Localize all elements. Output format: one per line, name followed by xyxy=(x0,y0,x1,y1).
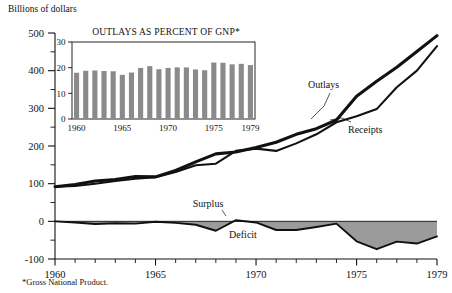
inset-bar xyxy=(74,73,79,119)
chart-svg: Billions of dollars 5004003002001000-100… xyxy=(0,0,452,293)
inset-bar xyxy=(193,69,198,119)
inset-x-tick-label: 1975 xyxy=(205,123,224,133)
budget-chart-figure: Billions of dollars 5004003002001000-100… xyxy=(0,0,452,293)
inset-x-tick-label: 1979 xyxy=(241,123,260,133)
x-tick-label: 1975 xyxy=(346,269,367,280)
y-tick-label: 300 xyxy=(28,103,44,114)
inset-bar xyxy=(230,64,235,119)
inset-x-tick-label: 1970 xyxy=(159,123,178,133)
inset-y-tick-label: 30 xyxy=(57,37,67,47)
inset-y-tick-label: 0 xyxy=(61,114,66,124)
inset-title: OUTLAYS AS PERCENT OF GNP* xyxy=(92,27,240,37)
chart-background xyxy=(0,0,452,293)
footnote-text: *Gross National Product. xyxy=(22,277,108,287)
inset-bar xyxy=(248,65,253,119)
inset-bar xyxy=(101,71,106,119)
inset-x-tick-label: 1965 xyxy=(113,123,132,133)
x-tick-label: 1979 xyxy=(427,269,448,280)
inset-bar xyxy=(211,63,216,119)
inset-bar xyxy=(147,66,152,119)
surplus-label: Surplus xyxy=(193,198,224,209)
inset-x-tick-label: 1960 xyxy=(68,123,87,133)
inset-bar xyxy=(166,68,171,119)
y-tick-label: 400 xyxy=(28,65,44,76)
y-tick-label: -100 xyxy=(25,254,44,265)
inset-bar xyxy=(239,64,244,119)
y-tick-label: 100 xyxy=(28,178,44,189)
x-tick-label: 1970 xyxy=(246,269,267,280)
inset-bar xyxy=(138,68,143,119)
inset-bar xyxy=(175,67,180,119)
outlays-label: Outlays xyxy=(308,79,339,90)
inset-y-tick-label: 20 xyxy=(57,63,67,73)
units-label: Billions of dollars xyxy=(8,4,77,14)
inset-bar xyxy=(92,70,97,119)
x-tick-label: 1965 xyxy=(145,269,166,280)
inset-bar xyxy=(184,67,189,119)
inset-y-tick-label: 10 xyxy=(57,89,67,99)
inset-bar xyxy=(120,75,125,119)
y-tick-label: 0 xyxy=(39,216,44,227)
inset-bar xyxy=(220,63,225,119)
inset-bar xyxy=(202,70,207,119)
inset-bar xyxy=(156,69,161,119)
y-tick-label: 200 xyxy=(28,141,44,152)
inset-bar xyxy=(129,73,134,119)
deficit-label: Deficit xyxy=(229,229,257,240)
inset-bar xyxy=(111,71,116,119)
receipts-label: Receipts xyxy=(348,124,383,135)
inset-bar xyxy=(83,71,88,119)
y-tick-label: 500 xyxy=(28,28,44,39)
